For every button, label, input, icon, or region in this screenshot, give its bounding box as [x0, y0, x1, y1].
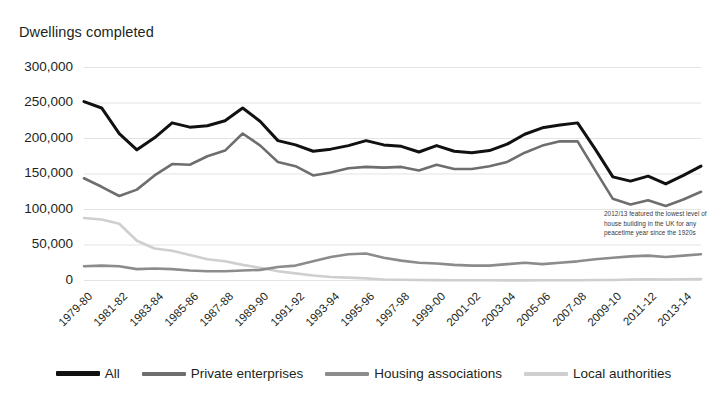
series-line-all — [84, 102, 701, 184]
legend-swatch — [56, 371, 100, 376]
chart-legend: AllPrivate enterprisesHousing associatio… — [0, 366, 727, 381]
legend-label: All — [105, 366, 120, 381]
legend-label: Local authorities — [573, 366, 671, 381]
chart-figure: Dwellings completed 300,000250,000200,00… — [0, 0, 727, 405]
legend-item-housing-associations[interactable]: Housing associations — [325, 366, 502, 381]
legend-label: Private enterprises — [191, 366, 304, 381]
chart-annotation: 2012/13 featured the lowest level of hou… — [604, 209, 718, 238]
plot-area — [0, 0, 727, 405]
series-line-housing-associations — [84, 254, 701, 272]
gridlines — [84, 68, 701, 281]
legend-swatch — [524, 372, 568, 376]
series-lines — [84, 102, 701, 281]
legend-item-local-authorities[interactable]: Local authorities — [524, 366, 671, 381]
legend-label: Housing associations — [374, 366, 502, 381]
legend-swatch — [142, 372, 186, 376]
legend-swatch — [325, 372, 369, 376]
legend-item-all[interactable]: All — [56, 366, 120, 381]
legend-item-private-enterprises[interactable]: Private enterprises — [142, 366, 304, 381]
